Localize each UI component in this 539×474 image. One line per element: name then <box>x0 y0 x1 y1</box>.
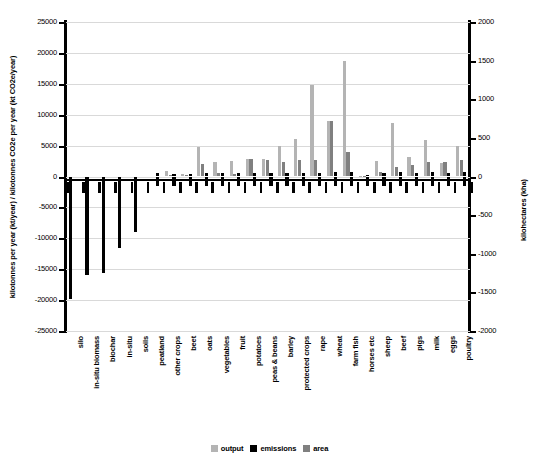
gridline <box>66 177 470 178</box>
x-tick <box>357 182 360 193</box>
x-tick <box>114 182 117 193</box>
bar-area <box>346 152 349 176</box>
x-axis-label: wheat <box>336 336 344 357</box>
x-tick <box>98 182 101 193</box>
y-tick-right <box>471 177 476 179</box>
bar-area <box>314 160 317 176</box>
x-axis-label: eggs <box>449 336 457 353</box>
bar-output <box>262 159 265 177</box>
bar-area <box>379 172 382 176</box>
x-tick <box>163 182 166 193</box>
bar-output <box>310 85 313 176</box>
x-axis-label: horses etc <box>368 336 376 372</box>
bar-area <box>411 165 414 177</box>
x-tick <box>438 182 441 193</box>
x-tick <box>66 182 69 193</box>
bar-area <box>217 173 220 177</box>
x-axis-label: soils <box>142 336 150 352</box>
y-tick-label-right: 1000 <box>478 95 494 103</box>
y-tick-left <box>59 207 64 209</box>
x-tick <box>470 182 473 193</box>
y-tick-right <box>471 138 476 140</box>
gridline <box>66 331 470 332</box>
y-axis-right-title: kilohectares (kha) <box>516 140 530 280</box>
x-tick <box>244 182 247 193</box>
bar-output <box>181 174 184 176</box>
x-axis-label: silo <box>77 336 85 348</box>
legend-item: emissions <box>250 444 296 453</box>
legend-item: area <box>303 444 328 453</box>
bar-output <box>197 147 200 177</box>
x-axis-label: oats <box>206 336 214 351</box>
x-tick <box>179 182 182 193</box>
legend-label: emissions <box>260 444 296 453</box>
bar-output <box>165 171 168 177</box>
bar-area <box>443 162 446 176</box>
bar-emissions <box>69 177 72 299</box>
y-tick-right <box>471 331 476 333</box>
y-tick-right <box>471 254 476 256</box>
y-tick-label-right: -500 <box>478 211 492 219</box>
x-tick <box>292 182 295 193</box>
x-tick <box>389 182 392 193</box>
y-tick-label-right: 0 <box>478 173 482 181</box>
legend-swatch <box>211 445 218 452</box>
y-tick-left <box>59 115 64 117</box>
x-tick <box>260 182 263 193</box>
y-tick-left <box>59 22 64 24</box>
x-axis-label: rape <box>319 336 327 351</box>
bar-area <box>266 160 269 176</box>
gridline <box>66 300 470 301</box>
x-axis-label: vegetables <box>223 336 231 373</box>
x-axis-label: milk <box>433 336 441 350</box>
bar-area <box>330 121 333 176</box>
gridline <box>66 53 470 54</box>
gridline <box>66 238 470 239</box>
x-axis-label: protected crops <box>303 336 311 390</box>
y-tick-label-left: 0 <box>53 173 57 181</box>
x-tick <box>131 182 134 193</box>
chart-legend: outputemissionsarea <box>0 444 539 453</box>
bar-area <box>282 162 285 177</box>
bar-output <box>230 161 233 176</box>
bar-output <box>327 121 330 177</box>
y-tick-left <box>59 238 64 240</box>
x-axis-label: potatoes <box>255 336 263 366</box>
y-tick-label-left: -10000 <box>35 234 57 242</box>
x-tick <box>422 182 425 193</box>
gridline <box>66 115 470 116</box>
x-axis-label: other crops <box>174 336 182 376</box>
bar-area <box>201 164 204 176</box>
legend-item: output <box>211 444 244 453</box>
y-tick-label-left: 25000 <box>37 18 57 26</box>
x-axis-label: peas & beans <box>271 336 279 383</box>
bar-area <box>249 159 252 176</box>
legend-swatch <box>303 445 310 452</box>
y-tick-left <box>59 300 64 302</box>
y-tick-label-left: 5000 <box>41 142 57 150</box>
zero-line <box>66 179 470 181</box>
bar-output <box>294 139 297 177</box>
x-axis-label: in-situ <box>126 336 134 357</box>
y-tick-label-right: -2000 <box>478 327 496 335</box>
gridline <box>66 269 470 270</box>
gridline <box>66 146 470 147</box>
x-axis-label: poultry <box>465 336 473 360</box>
y-axis-left-title: kilotonnes per year (kt/year) / kilotonn… <box>6 22 18 332</box>
legend-label: output <box>221 444 244 453</box>
bar-area <box>233 174 236 176</box>
x-tick <box>373 182 376 193</box>
bar-area <box>460 160 463 177</box>
y-tick-label-right: 1500 <box>478 57 494 65</box>
bar-output <box>391 123 394 177</box>
chart-figure: kilotonnes per year (kt/year) / kilotonn… <box>0 0 539 474</box>
y-tick-right <box>471 215 476 217</box>
bar-area <box>169 175 172 176</box>
y-tick-left <box>59 269 64 271</box>
x-tick <box>82 182 85 193</box>
bar-output <box>424 140 427 176</box>
y-tick-left <box>59 53 64 55</box>
y-tick-left <box>59 84 64 86</box>
x-tick <box>276 182 279 193</box>
y-tick-label-left: 10000 <box>37 111 57 119</box>
